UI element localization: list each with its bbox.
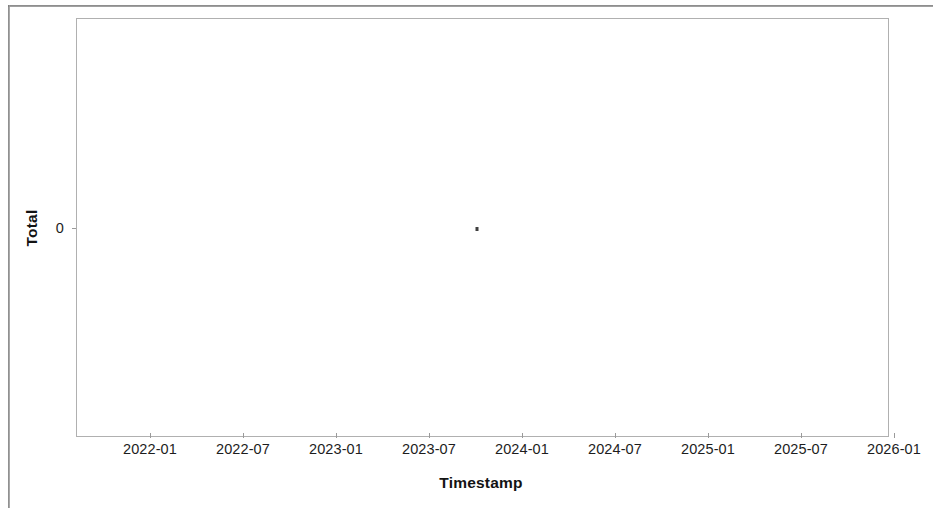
- x-axis-tick-label: 2023-01: [309, 441, 363, 457]
- plot-area: [76, 18, 889, 437]
- x-axis-tick-mark: [150, 433, 151, 438]
- x-axis-tick-mark: [429, 433, 430, 438]
- x-axis-tick-label: 2024-01: [495, 441, 549, 457]
- x-axis-tick-label: 2025-01: [681, 441, 735, 457]
- x-axis-tick-label: 2024-07: [588, 441, 642, 457]
- x-axis-tick-label: 2022-01: [123, 441, 177, 457]
- x-axis-tick-label: 2022-07: [216, 441, 270, 457]
- data-points-layer: [77, 19, 888, 436]
- x-axis-tick-label: 2025-07: [774, 441, 828, 457]
- x-axis-tick-label: 2026-01: [867, 441, 921, 457]
- x-axis-tick-mark: [708, 433, 709, 438]
- x-axis-tick-mark: [522, 433, 523, 438]
- y-axis-tick-label: 0: [6, 220, 64, 236]
- x-axis-label: Timestamp: [439, 474, 522, 492]
- x-axis-tick-mark: [894, 433, 895, 438]
- chart-figure: Total 0 2022-012022-072023-012023-072024…: [0, 0, 933, 508]
- x-axis-tick-mark: [336, 433, 337, 438]
- data-point: [475, 227, 478, 231]
- scanned-page: Total 0 2022-012022-072023-012023-072024…: [0, 0, 933, 508]
- x-axis-tick-mark: [615, 433, 616, 438]
- x-axis-tick-mark: [801, 433, 802, 438]
- x-axis-tick-mark: [243, 433, 244, 438]
- x-axis-tick-label: 2023-07: [402, 441, 456, 457]
